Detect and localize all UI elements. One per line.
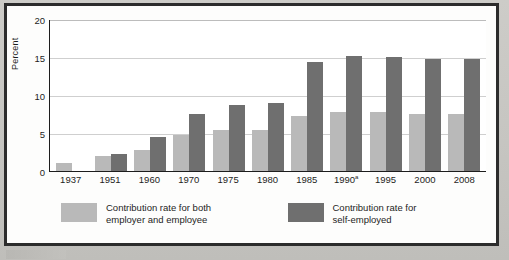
y-tick-label: 10	[34, 91, 45, 102]
bar-self-employed	[150, 137, 166, 171]
x-tick-label: 1960	[130, 174, 169, 185]
bar-group	[327, 20, 366, 171]
bar-self-employed	[464, 59, 480, 171]
legend-label-line1: Contribution rate for	[333, 202, 417, 214]
bar-employer-employee	[134, 150, 150, 171]
y-tick-label: 15	[34, 53, 45, 64]
bar-group	[52, 20, 91, 171]
x-tick-label: 1980	[248, 174, 287, 185]
bar-group	[248, 20, 287, 171]
y-axis-title: Percent	[10, 56, 20, 70]
legend-item: Contribution rate for bothemployer and e…	[61, 202, 252, 225]
legend-label: Contribution rate forself-employed	[333, 202, 417, 225]
bar-self-employed	[307, 62, 323, 171]
chart-legend: Contribution rate for bothemployer and e…	[61, 202, 478, 225]
bar-group	[209, 20, 248, 171]
bar-employer-employee	[330, 112, 346, 171]
x-tick-label: 1951	[90, 174, 129, 185]
figure-frame: Percent 20151050 19371951196019701975198…	[4, 3, 499, 246]
bar-employer-employee	[291, 116, 307, 171]
legend-label-line2: employer and employee	[106, 214, 211, 226]
x-tick-label: 1995	[366, 174, 405, 185]
bar-employer-employee	[213, 130, 229, 171]
bar-group	[170, 20, 209, 171]
legend-label-line1: Contribution rate for both	[106, 202, 211, 214]
x-tick-label: 2008	[445, 174, 484, 185]
bar-groups	[50, 20, 486, 171]
bar-self-employed	[229, 105, 245, 171]
x-tick-label: 1970	[169, 174, 208, 185]
bar-self-employed	[268, 103, 284, 171]
x-tick-label: 1937	[51, 174, 90, 185]
bar-group	[445, 20, 484, 171]
bar-employer-employee	[370, 112, 386, 171]
y-axis-tick-labels: 20151050	[21, 16, 47, 176]
chart-container: Percent 20151050 19371951196019701975198…	[7, 6, 496, 243]
x-axis-tick-labels: 19371951196019701975198019851990a1995200…	[49, 174, 486, 185]
bar-self-employed	[189, 114, 205, 171]
bar-group	[131, 20, 170, 171]
bar-group	[288, 20, 327, 171]
footnote-marker: a	[355, 174, 358, 180]
legend-item: Contribution rate forself-employed	[288, 202, 479, 225]
y-tick-label: 0	[40, 167, 45, 178]
bar-employer-employee	[448, 114, 464, 171]
scan-edge-artifact	[6, 250, 66, 259]
bar-employer-employee	[56, 163, 72, 171]
bar-self-employed	[346, 56, 362, 171]
bar-employer-employee	[95, 156, 111, 171]
legend-label: Contribution rate for bothemployer and e…	[106, 202, 211, 225]
legend-swatch	[288, 203, 324, 222]
bar-group	[366, 20, 405, 171]
legend-label-line2: self-employed	[333, 214, 417, 226]
bar-employer-employee	[173, 135, 189, 171]
bar-self-employed	[111, 154, 127, 171]
x-tick-label: 1985	[287, 174, 326, 185]
bar-employer-employee	[409, 114, 425, 171]
legend-swatch	[61, 203, 97, 222]
bar-group	[91, 20, 130, 171]
bar-group	[405, 20, 444, 171]
x-tick-label: 1975	[208, 174, 247, 185]
scanned-page-background: Percent 20151050 19371951196019701975198…	[0, 0, 509, 260]
x-tick-label: 2000	[405, 174, 444, 185]
bar-self-employed	[425, 59, 441, 171]
figure-inner: Percent 20151050 19371951196019701975198…	[7, 6, 496, 243]
y-tick-label: 20	[34, 15, 45, 26]
y-tick-label: 5	[40, 129, 45, 140]
bar-self-employed	[386, 57, 402, 171]
plot-area	[49, 20, 486, 172]
x-tick-label: 1990a	[327, 174, 366, 185]
bar-employer-employee	[252, 130, 268, 171]
